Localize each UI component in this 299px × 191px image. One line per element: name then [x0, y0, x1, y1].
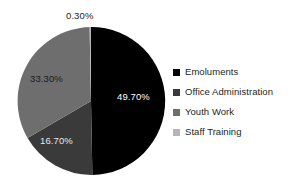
- pie-label-office-administration: 16.70%: [40, 136, 73, 146]
- legend-swatch-icon: [173, 69, 180, 76]
- legend-swatch-icon: [173, 89, 180, 96]
- pie-label-youth-work: 33.30%: [30, 74, 63, 84]
- legend-item-office-administration[interactable]: Office Administration: [173, 82, 299, 102]
- legend-item-label: Office Administration: [185, 87, 273, 97]
- pie-chart: 0.30% 33.30% 49.70% 16.70% Emoluments Of…: [0, 0, 299, 191]
- legend-swatch-icon: [173, 129, 180, 136]
- legend-item-youth-work[interactable]: Youth Work: [173, 102, 299, 122]
- legend-item-staff-training[interactable]: Staff Training: [173, 122, 299, 142]
- pie-label-staff-training: 0.30%: [66, 11, 93, 21]
- legend-item-label: Youth Work: [185, 107, 234, 117]
- legend-item-label: Staff Training: [185, 127, 242, 137]
- legend: Emoluments Office Administration Youth W…: [173, 62, 299, 142]
- pie-label-emoluments: 49.70%: [117, 92, 150, 102]
- legend-swatch-icon: [173, 109, 180, 116]
- pie-plot-area: 0.30% 33.30% 49.70% 16.70%: [0, 0, 175, 191]
- legend-item-label: Emoluments: [185, 67, 238, 77]
- legend-item-emoluments[interactable]: Emoluments: [173, 62, 299, 82]
